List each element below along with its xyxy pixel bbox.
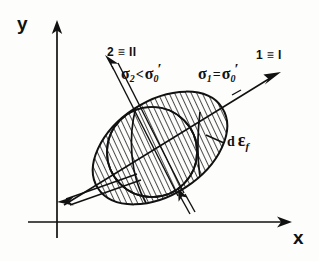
strain-increment-subscript: f xyxy=(246,140,250,152)
sigma-1-operator: = xyxy=(213,67,221,82)
diagram-canvas xyxy=(0,0,319,261)
strain-increment-epsilon: ε xyxy=(238,130,246,150)
sigma-2-condition-label: σ2<σ0′ xyxy=(121,62,162,84)
strain-increment-label: dεf xyxy=(227,131,249,152)
load-arrow-lower-right-line-a xyxy=(180,196,190,214)
direction-1-label: 1 ≡ I xyxy=(256,49,282,61)
figure-container: y x 2 ≡ II 1 ≡ I σ2<σ0′ σ1=σ0′ dεf xyxy=(0,0,319,261)
sigma-1-subscript: 1 xyxy=(207,73,212,84)
sigma-1-condition-label: σ1=σ0′ xyxy=(198,62,239,84)
sigma-1-rhs-prime: ′ xyxy=(234,61,238,77)
yield-ellipse-group xyxy=(72,68,247,227)
strain-increment-d: d xyxy=(227,134,235,149)
sigma-2-rhs-prime: ′ xyxy=(157,61,161,77)
sigma-2-operator: < xyxy=(136,67,144,82)
direction-2-label: 2 ≡ II xyxy=(107,46,136,58)
sigma1-pointer-tick xyxy=(232,90,241,95)
sigma-1-symbol: σ xyxy=(198,65,207,82)
y-axis-label: y xyxy=(17,14,28,33)
load-arrow-lower-right xyxy=(178,188,195,214)
sigma-2-subscript: 2 xyxy=(130,73,135,84)
x-axis-label: x xyxy=(293,228,304,247)
principal-axis-1-arrowhead xyxy=(263,72,281,85)
sigma-2-symbol: σ xyxy=(121,65,130,82)
